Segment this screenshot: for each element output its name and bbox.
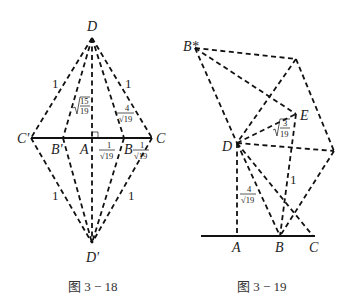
caption-3-19: 图 3 − 19 [237,279,287,294]
segment-d-b [237,143,280,236]
point-label-b-star: B* [183,39,199,54]
segment-b-star-d [195,48,237,143]
segment-top-right [296,59,334,151]
segment-d-right [237,143,334,151]
point-label-c: C [309,240,319,255]
caption-3-18: 图 3 − 18 [68,279,118,294]
label-bc-1-over-sqrt19: 1 √19 [133,140,149,161]
label-4-over-sqrt19: 4 √19 [240,184,256,205]
geometry-figures: D D' C' B' A B C 1 1 1 1 15 19 4 √19 1 √… [0,0,346,307]
segment-right-b [280,151,334,236]
svg-text:4: 4 [125,103,130,113]
point-label-a: A [79,142,89,157]
point-label-d-prime: D' [85,250,100,265]
point-label-d: D [221,139,232,154]
figure-3-19: B* E D A B C 3 19 4 √19 1 图 3 − 19 [183,39,334,294]
edge-label-lower-right: 1 [128,188,135,203]
label-sqrt-15-19: 15 19 [73,96,90,116]
edge-label-eb: 1 [290,172,297,187]
edge-label-upper-right: 1 [125,76,132,91]
svg-text:3: 3 [283,118,287,128]
svg-text:√19: √19 [241,195,254,205]
edge-label-lower-left: 1 [52,188,59,203]
point-label-c-prime: C' [17,131,30,146]
svg-text:15: 15 [80,96,89,106]
segment-d-b-prime [63,38,92,138]
point-label-e: E [299,108,309,123]
point-label-c: C [156,131,166,146]
svg-text:√19: √19 [100,151,113,161]
label-ab-1-over-sqrt19: 1 √19 [99,140,115,161]
svg-text:1: 1 [140,140,144,150]
label-4-over-sqrt19: 4 √19 [117,103,134,124]
edge-label-upper-left: 1 [52,76,59,91]
point-label-b: B [124,142,133,157]
svg-text:4: 4 [247,184,252,194]
point-label-a: A [231,240,241,255]
label-sqrt-3-19: 3 19 [273,118,290,139]
segment-d-c-prime [31,38,92,138]
svg-text:1: 1 [107,140,111,150]
svg-text:19: 19 [280,129,289,139]
svg-text:19: 19 [80,106,89,116]
point-label-d: D [86,19,97,34]
point-label-b: B [275,240,284,255]
svg-text:√19: √19 [119,114,132,124]
point-label-b-prime: B' [51,142,64,157]
figure-3-18: D D' C' B' A B C 1 1 1 1 15 19 4 √19 1 √… [17,19,166,294]
svg-text:√19: √19 [134,151,147,161]
